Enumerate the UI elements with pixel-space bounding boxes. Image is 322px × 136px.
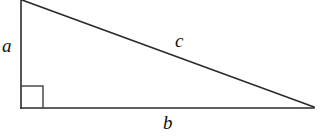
hypotenuse-label: c — [175, 31, 183, 50]
horizontal-leg-label: b — [163, 113, 173, 132]
triangle-drawing — [0, 0, 322, 136]
right-angle-square-icon — [21, 86, 43, 108]
right-triangle-figure: a c b — [0, 0, 322, 136]
vertical-leg-label: a — [2, 36, 12, 55]
hypotenuse-line — [22, 0, 314, 107]
